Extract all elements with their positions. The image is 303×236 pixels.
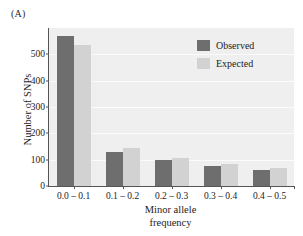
bar-group: [147, 158, 196, 186]
x-axis-title-line2: frequency: [48, 216, 293, 229]
bar-expected: [270, 168, 287, 186]
bar-observed: [253, 170, 270, 186]
x-tick-mark: [123, 186, 124, 189]
y-tick-label: 300: [31, 102, 45, 112]
y-tick-label: 400: [31, 76, 45, 86]
legend-label-observed: Observed: [216, 40, 254, 51]
y-tick-label: 100: [31, 155, 45, 165]
bar-expected: [74, 45, 91, 186]
x-tick-label: 0.2 – 0.3: [155, 191, 188, 201]
bar-observed: [106, 152, 123, 186]
x-axis-title-line1: Minor allele: [48, 203, 293, 216]
y-tick-label: 500: [31, 49, 45, 59]
x-tick-mark: [270, 186, 271, 189]
legend-label-expected: Expected: [216, 58, 253, 69]
bar-observed: [155, 160, 172, 186]
figure-panel-a: (A) Number of SNPs 01002003004005000.0 –…: [0, 0, 303, 236]
bar-expected: [221, 164, 238, 186]
x-tick-mark: [172, 186, 173, 189]
legend-item-expected: Expected: [197, 58, 254, 69]
x-tick-label: 0.1 – 0.2: [106, 191, 139, 201]
y-tick-label: 0: [40, 181, 45, 191]
bar-observed: [204, 166, 221, 186]
bar-expected: [123, 148, 140, 186]
x-tick-label: 0.4 – 0.5: [253, 191, 286, 201]
bar-observed: [57, 36, 74, 186]
bar-group: [245, 168, 294, 186]
legend-item-observed: Observed: [197, 40, 254, 51]
x-tick-label: 0.0 – 0.1: [57, 191, 90, 201]
legend-swatch-expected-icon: [197, 58, 210, 69]
x-tick-mark: [221, 186, 222, 189]
x-axis-title: Minor allele frequency: [48, 203, 293, 229]
legend-swatch-observed-icon: [197, 40, 210, 51]
bar-group: [49, 36, 98, 186]
bar-group: [196, 164, 245, 186]
x-tick-mark: [74, 186, 75, 189]
bar-expected: [172, 158, 189, 186]
panel-label: (A): [11, 8, 25, 19]
y-tick-label: 200: [31, 128, 45, 138]
x-tick-mark-end: [294, 186, 295, 189]
legend: Observed Expected: [197, 40, 254, 76]
plot-area: 01002003004005000.0 – 0.10.1 – 0.20.2 – …: [48, 28, 294, 187]
x-tick-label: 0.3 – 0.4: [204, 191, 237, 201]
bar-group: [98, 148, 147, 186]
